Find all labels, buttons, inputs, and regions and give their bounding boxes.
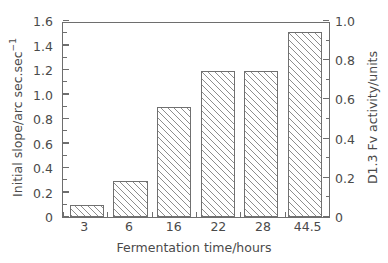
x-tick-label: 44.5 <box>294 221 322 234</box>
y-tick-label-right: 0.6 <box>335 94 369 107</box>
y-tick-label-right: 0.2 <box>335 173 369 186</box>
y-tick-major-right <box>323 20 329 21</box>
y-tick-label-right: 0 <box>335 212 369 225</box>
y-tick-major-left <box>63 20 69 21</box>
x-tick-label: 3 <box>80 221 88 234</box>
x-tick <box>329 212 330 217</box>
x-tick-label: 6 <box>125 221 133 234</box>
bar <box>201 71 235 217</box>
y-tick-label-left: 1.2 <box>19 65 53 78</box>
y-tick-label-left: 0.2 <box>19 188 53 201</box>
y-tick-label-left: 0 <box>19 212 53 225</box>
y-tick-label-right: 1.0 <box>335 16 369 29</box>
y-axis-title-left-superscript: −1 <box>8 38 18 51</box>
bar <box>113 181 147 217</box>
x-axis-title: Fermentation time/hours <box>0 240 388 255</box>
x-tick-label: 28 <box>255 221 271 234</box>
y-tick-label-left: 0.8 <box>19 114 53 127</box>
y-tick-label-left: 1.0 <box>19 90 53 103</box>
bar <box>244 71 278 217</box>
bar-series <box>63 23 329 217</box>
bar <box>70 205 104 217</box>
y-axis-title-right: D1.3 Fv activity/units <box>365 18 380 218</box>
y-tick-label-right: 0.8 <box>335 55 369 68</box>
x-tick-label: 16 <box>166 221 182 234</box>
chart-figure: Initial slope/arc sec.sec−1 D1.3 Fv acti… <box>0 0 388 263</box>
bar <box>157 107 191 217</box>
y-tick-label-right: 0.4 <box>335 134 369 147</box>
y-tick-label-left: 0.4 <box>19 163 53 176</box>
x-tick-label: 22 <box>210 221 226 234</box>
y-tick-label-left: 1.4 <box>19 41 53 54</box>
y-tick-label-left: 0.6 <box>19 139 53 152</box>
bar <box>288 32 322 217</box>
plot-area <box>62 22 330 218</box>
y-tick-label-left: 1.6 <box>19 16 53 29</box>
